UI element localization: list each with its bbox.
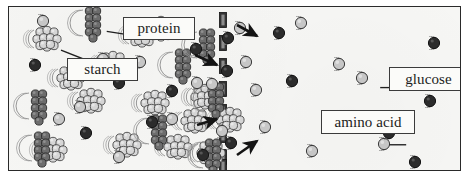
figure-frame: protein starch glucose amino acid bbox=[8, 6, 461, 171]
label-amino-acid: amino acid bbox=[321, 110, 415, 134]
label-glucose: glucose bbox=[389, 67, 461, 91]
diagram-canvas: protein starch glucose amino acid bbox=[0, 0, 471, 183]
label-protein: protein bbox=[123, 17, 195, 40]
arrow-amino-out bbox=[237, 141, 257, 155]
label-starch: starch bbox=[67, 58, 138, 81]
